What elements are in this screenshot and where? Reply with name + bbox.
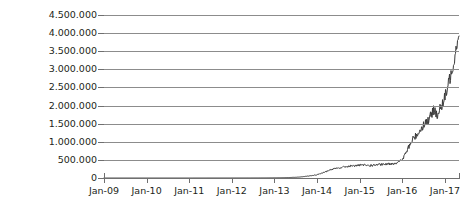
gridline xyxy=(104,106,459,107)
x-axis-line xyxy=(104,178,460,179)
x-axis-tick-mark xyxy=(274,178,275,183)
hash-rate-line xyxy=(104,36,459,178)
y-axis-tick-mark xyxy=(98,33,104,34)
x-axis-tick-label: Jan-10 xyxy=(132,186,162,196)
y-axis-tick-label: 4.000.000 xyxy=(20,28,97,38)
y-axis-tick-label: 3.000.000 xyxy=(20,64,97,74)
y-axis-tick-mark xyxy=(98,142,104,143)
x-axis-tick-label: Jan-12 xyxy=(217,186,247,196)
x-axis-tick-label: Jan-13 xyxy=(259,186,289,196)
x-axis-tick-label: Jan-15 xyxy=(345,186,375,196)
x-axis-tick-mark xyxy=(147,178,148,183)
y-axis-tick-label: 4.500.000 xyxy=(20,10,97,20)
x-axis-tick-mark xyxy=(189,178,190,183)
gridline xyxy=(104,124,459,125)
hash-rate-series xyxy=(104,15,459,178)
y-axis-tick-label: 0 xyxy=(20,173,97,183)
y-axis-tick-mark xyxy=(98,124,104,125)
y-axis-tick-mark xyxy=(98,69,104,70)
y-axis-tick-label: 500.000 xyxy=(20,155,97,165)
x-axis-tick-mark xyxy=(360,178,361,183)
plot-area xyxy=(104,15,459,178)
gridline xyxy=(104,142,459,143)
x-axis-right-cap xyxy=(459,173,460,179)
x-axis-tick-label: Jan-17 xyxy=(430,186,460,196)
x-axis-tick-label: Jan-14 xyxy=(302,186,332,196)
y-axis-tick-label: 1.000.000 xyxy=(20,137,97,147)
gridline xyxy=(104,33,459,34)
y-axis-tick-labels: 4.500.0004.000.0003.500.0003.000.0002.50… xyxy=(20,0,97,208)
y-axis-tick-mark xyxy=(98,160,104,161)
x-axis-tick-label: Jan-09 xyxy=(89,186,119,196)
gridline xyxy=(104,51,459,52)
y-axis-tick-label: 2.500.000 xyxy=(20,82,97,92)
y-axis-tick-label: 3.500.000 xyxy=(20,46,97,56)
x-axis-tick-mark xyxy=(445,178,446,183)
gridline xyxy=(104,87,459,88)
gridline xyxy=(104,69,459,70)
y-axis-tick-label: 1.500.000 xyxy=(20,119,97,129)
hash-rate-chart: Taxa de Hash (TH/s) 4.500.0004.000.0003.… xyxy=(0,0,466,208)
x-axis-tick-mark xyxy=(402,178,403,183)
x-axis-tick-mark xyxy=(317,178,318,183)
x-axis-tick-label: Jan-11 xyxy=(174,186,204,196)
gridline xyxy=(104,160,459,161)
y-axis-tick-mark xyxy=(98,51,104,52)
y-axis-tick-mark xyxy=(98,15,104,16)
x-axis-tick-mark xyxy=(232,178,233,183)
x-axis-tick-label: Jan-16 xyxy=(387,186,417,196)
x-axis-tick-mark xyxy=(104,178,105,183)
gridline xyxy=(104,15,459,16)
y-axis-tick-mark xyxy=(98,106,104,107)
y-axis-tick-mark xyxy=(98,87,104,88)
y-axis-tick-label: 2.000.000 xyxy=(20,101,97,111)
